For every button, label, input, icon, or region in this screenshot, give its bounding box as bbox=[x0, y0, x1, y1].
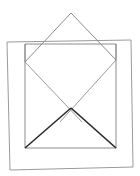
envelope-diagram bbox=[0, 0, 140, 176]
diagram-background bbox=[0, 0, 140, 176]
figure-canvas bbox=[0, 0, 140, 176]
